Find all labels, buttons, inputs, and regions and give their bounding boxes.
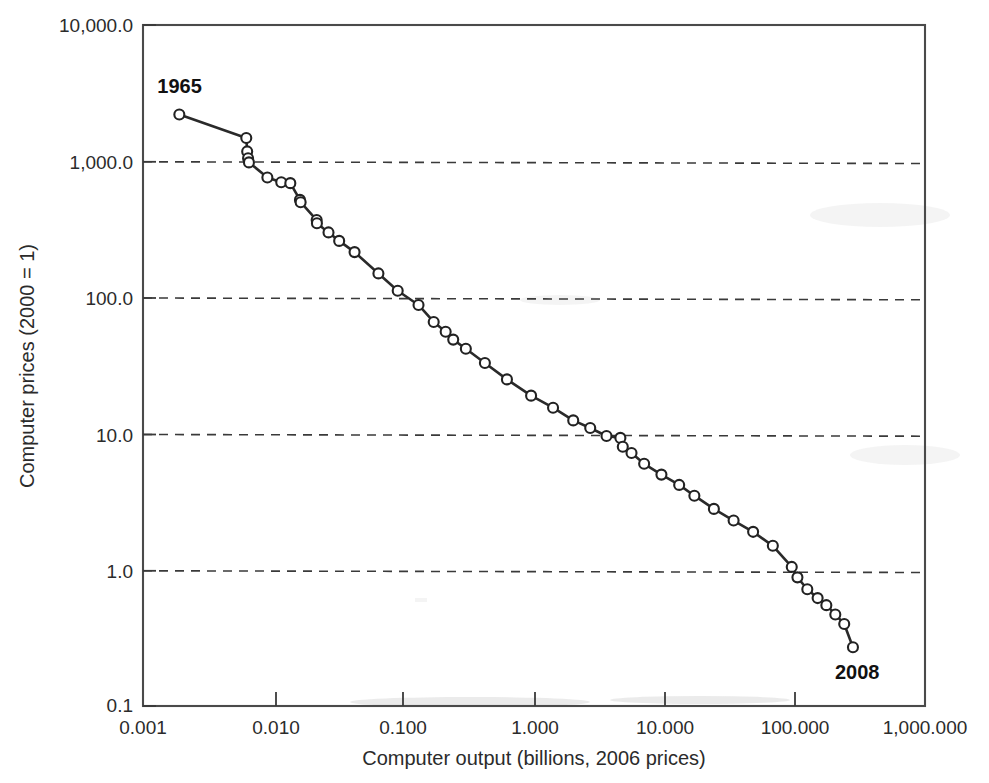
gridlines bbox=[143, 162, 925, 573]
data-point-marker bbox=[656, 470, 666, 480]
data-point-marker bbox=[244, 157, 254, 167]
data-point-marker bbox=[414, 300, 424, 310]
x-tick-label: 1,000.000 bbox=[883, 717, 968, 738]
data-point-marker bbox=[548, 403, 558, 413]
data-point-marker bbox=[526, 391, 536, 401]
data-point-marker bbox=[393, 286, 403, 296]
gridline-10 bbox=[143, 435, 925, 437]
data-point-marker bbox=[324, 227, 334, 237]
x-axis-title: Computer output (billions, 2006 prices) bbox=[362, 747, 706, 769]
data-point-marker bbox=[813, 593, 823, 603]
gridline-1000 bbox=[143, 162, 925, 164]
data-point-marker bbox=[296, 197, 306, 207]
data-point-marker bbox=[350, 247, 360, 257]
x-tick-label: 0.100 bbox=[379, 717, 427, 738]
data-point-marker bbox=[729, 516, 739, 526]
y-axis-title: Computer prices (2000 = 1) bbox=[16, 244, 38, 488]
data-point-marker bbox=[787, 562, 797, 572]
data-point-marker bbox=[429, 317, 439, 327]
data-point-marker bbox=[802, 584, 812, 594]
data-point-marker bbox=[674, 480, 684, 490]
x-tick-label: 0.001 bbox=[119, 717, 167, 738]
data-point-marker bbox=[174, 110, 184, 120]
data-point-marker bbox=[241, 133, 251, 143]
data-point-marker bbox=[639, 459, 649, 469]
data-point-marker bbox=[748, 527, 758, 537]
data-point-marker bbox=[285, 178, 295, 188]
data-point-marker bbox=[262, 172, 272, 182]
data-point-marker bbox=[461, 344, 471, 354]
gridline-1 bbox=[143, 571, 925, 573]
data-point-marker bbox=[768, 541, 778, 551]
y-tick-label: 100.0 bbox=[85, 288, 133, 309]
x-tick-label: 1.000 bbox=[511, 717, 559, 738]
y-tick-labels: 10,000.0 1,000.0 100.0 10.0 1.0 0.1 bbox=[59, 15, 133, 716]
x-tick-label: 0.010 bbox=[252, 717, 300, 738]
y-tick-label: 10.0 bbox=[96, 425, 133, 446]
data-point-marker bbox=[585, 423, 595, 433]
data-point-marker bbox=[373, 268, 383, 278]
data-point-marker bbox=[627, 448, 637, 458]
data-point-marker bbox=[502, 374, 512, 384]
data-point-marker bbox=[334, 236, 344, 246]
data-point-marker bbox=[839, 619, 849, 629]
data-annotation-label: 1965 bbox=[157, 75, 202, 97]
data-point-marker bbox=[709, 504, 719, 514]
data-point-marker bbox=[689, 491, 699, 501]
series-line bbox=[179, 115, 853, 648]
y-tick-label: 1.0 bbox=[107, 561, 133, 582]
data-point-marker bbox=[792, 572, 802, 582]
data-point-marker bbox=[480, 358, 490, 368]
chart-figure: 10,000.0 1,000.0 100.0 10.0 1.0 0.1 0.00… bbox=[0, 0, 989, 783]
y-tickmarks bbox=[143, 25, 156, 706]
x-tick-label: 100.000 bbox=[761, 717, 830, 738]
log-log-line-chart: 10,000.0 1,000.0 100.0 10.0 1.0 0.1 0.00… bbox=[0, 0, 989, 783]
data-annotations: 19652008 bbox=[157, 75, 879, 684]
data-point-marker bbox=[602, 431, 612, 441]
y-tick-label: 1,000.0 bbox=[70, 152, 133, 173]
data-annotation-label: 2008 bbox=[835, 661, 880, 683]
data-point-marker bbox=[821, 600, 831, 610]
scan-artifacts bbox=[350, 203, 960, 707]
data-point-marker bbox=[448, 335, 458, 345]
x-tick-label: 10.000 bbox=[636, 717, 694, 738]
gridline-100 bbox=[143, 298, 925, 300]
y-tick-label: 0.1 bbox=[107, 695, 133, 716]
data-point-marker bbox=[848, 642, 858, 652]
data-point-marker bbox=[568, 415, 578, 425]
x-tick-labels: 0.001 0.010 0.100 1.000 10.000 100.000 1… bbox=[119, 717, 967, 738]
plot-frame bbox=[143, 25, 925, 706]
y-tick-label: 10,000.0 bbox=[59, 15, 133, 36]
data-point-marker bbox=[830, 609, 840, 619]
data-point-marker bbox=[312, 218, 322, 228]
